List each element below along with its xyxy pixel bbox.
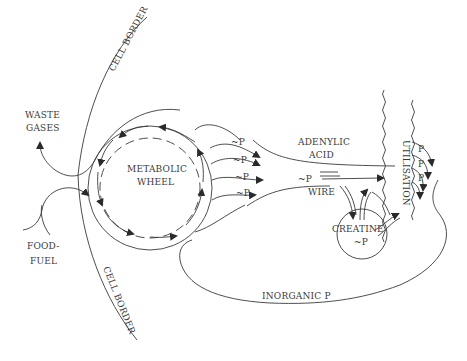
wire-label: WIRE (308, 187, 335, 197)
p-bond-4: ~P (236, 188, 250, 198)
food-fuel-label-2: FUEL (30, 256, 57, 266)
food-fuel-label-1: FOOD- (27, 241, 59, 251)
creatine-label: CREATINE (332, 224, 384, 234)
wheel-to-funnel-bottom (195, 205, 245, 232)
p-bond-2: ~P (233, 155, 247, 165)
util-p-1: P (418, 144, 424, 154)
food-fuel-curve-b (41, 205, 50, 235)
p-bond-3: ~P (235, 172, 249, 182)
cell-border-top-label: CELL BORDER (107, 5, 150, 73)
metabolic-wheel-dashed (100, 138, 200, 238)
adenylic-acid-label-1: ADENYLIC (297, 137, 350, 147)
util-p-3: P (418, 173, 424, 183)
waste-gases-label-2: GASES (26, 123, 60, 133)
metabolic-wheel-label-1: METABOLIC (127, 164, 187, 174)
creatine-in-arrow (340, 186, 353, 218)
waste-gases-label-1: WASTE (25, 110, 60, 120)
wire-p-label: ~P (298, 174, 312, 184)
wire-to-creatine (372, 192, 390, 215)
wheel-arrow-1 (160, 127, 195, 142)
creatine-p-label: ~P (354, 237, 368, 247)
utilisation-label: UTILISATION (401, 140, 411, 206)
food-fuel-arrow (23, 188, 88, 230)
adenylic-acid-label-2: ACID (308, 150, 334, 160)
metabolic-wheel-label-2: WHEEL (137, 177, 174, 187)
creatine-out-arrow (360, 190, 367, 220)
diagram-canvas: ~P ~P ~P ~P P P P CELL BORDER CELL BORDE… (0, 0, 467, 361)
wire-arrow (322, 178, 383, 179)
wheel-arrow-6 (150, 236, 176, 237)
creatine-out-arrow-b (364, 192, 371, 220)
cell-border-bottom-label: CELL BORDER (101, 265, 137, 335)
p-bond-1: ~P (231, 137, 245, 147)
creatine-circle (337, 209, 387, 259)
metabolic-wheel-outer (88, 126, 212, 250)
inorganic-p-label: INORGANIC P (262, 291, 331, 301)
wheel-arrow-5 (104, 210, 133, 234)
metabolic-diagram: ~P ~P ~P ~P P P P CELL BORDER CELL BORDE… (0, 0, 467, 361)
util-p-2: P (418, 159, 424, 169)
